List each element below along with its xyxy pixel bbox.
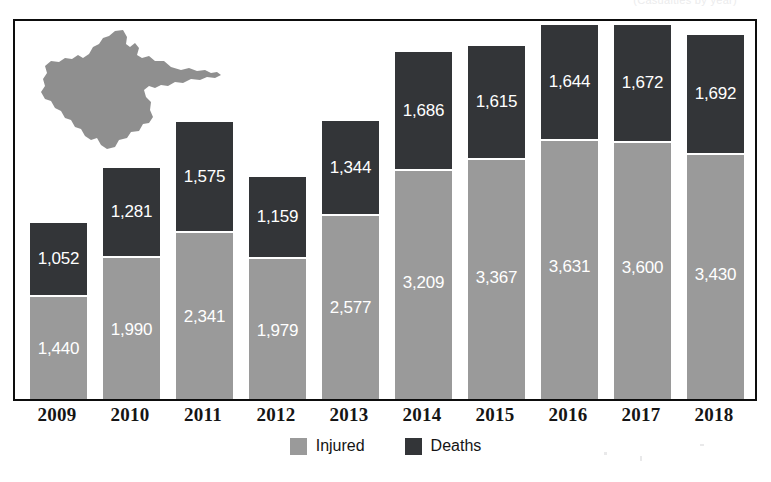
bar-segment-deaths-2012[interactable]: 1,159 — [249, 177, 306, 259]
bar-stack-2015: 1,615 3,367 — [468, 46, 525, 399]
bar-stack-2013: 1,344 2,577 — [322, 121, 379, 399]
x-tick-2018: 2018 — [682, 404, 746, 426]
bar-value-injured-2010: 1,990 — [103, 320, 160, 340]
bar-value-injured-2013: 2,577 — [322, 298, 379, 318]
bar-segment-deaths-2018[interactable]: 1,692 — [687, 35, 744, 155]
bar-value-injured-2017: 3,600 — [614, 258, 671, 278]
scan-artifact — [604, 452, 607, 455]
bar-value-deaths-2013: 1,344 — [322, 157, 379, 177]
bar-stack-2014: 1,686 3,209 — [395, 52, 452, 399]
x-tick-2010: 2010 — [98, 404, 162, 426]
plot-area: 1,052 1,440 1,281 1,990 1,57 — [15, 21, 755, 399]
bar-segment-injured-2010[interactable]: 1,990 — [103, 258, 160, 399]
bar-value-injured-2009: 1,440 — [30, 339, 87, 359]
legend-swatch-deaths-icon — [405, 438, 422, 455]
bar-segment-injured-2015[interactable]: 3,367 — [468, 160, 525, 399]
bar-segment-deaths-2017[interactable]: 1,672 — [614, 25, 671, 143]
cropped-caption-strip: (Casualties by year) — [0, 0, 771, 14]
bar-value-deaths-2014: 1,686 — [395, 100, 452, 120]
x-tick-2015: 2015 — [463, 404, 527, 426]
bar-value-injured-2015: 3,367 — [468, 268, 525, 288]
bar-value-injured-2011: 2,341 — [176, 307, 233, 327]
legend-item-injured[interactable]: Injured — [290, 437, 365, 455]
legend-item-deaths[interactable]: Deaths — [405, 437, 482, 455]
bar-segment-injured-2009[interactable]: 1,440 — [30, 297, 87, 399]
chart-legend: Injured Deaths — [0, 437, 771, 455]
scan-artifact — [640, 456, 642, 461]
scan-artifact — [700, 444, 704, 446]
bar-value-injured-2014: 3,209 — [395, 273, 452, 293]
bar-stack-2012: 1,159 1,979 — [249, 177, 306, 399]
bar-value-deaths-2009: 1,052 — [30, 249, 87, 269]
x-tick-2013: 2013 — [317, 404, 381, 426]
bar-segment-injured-2017[interactable]: 3,600 — [614, 143, 671, 399]
legend-label-deaths: Deaths — [431, 437, 482, 455]
bar-stack-2018: 1,692 3,430 — [687, 35, 744, 399]
bar-stack-2017: 1,672 3,600 — [614, 25, 671, 399]
bar-stack-2011: 1,575 2,341 — [176, 122, 233, 399]
bar-stack-2010: 1,281 1,990 — [103, 168, 160, 399]
bar-value-deaths-2012: 1,159 — [249, 207, 306, 227]
bar-value-injured-2018: 3,430 — [687, 265, 744, 285]
bar-segment-deaths-2016[interactable]: 1,644 — [541, 25, 598, 141]
legend-label-injured: Injured — [316, 437, 365, 455]
bar-stack-2009: 1,052 1,440 — [30, 223, 87, 399]
bar-value-injured-2016: 3,631 — [541, 257, 598, 277]
x-tick-2011: 2011 — [171, 404, 235, 426]
bar-segment-deaths-2014[interactable]: 1,686 — [395, 52, 452, 171]
bar-value-deaths-2015: 1,615 — [468, 92, 525, 112]
chart-frame: 1,052 1,440 1,281 1,990 1,57 — [13, 19, 757, 401]
x-axis: 2009 2010 2011 2012 2013 2014 2015 2016 … — [13, 404, 757, 430]
bar-value-deaths-2016: 1,644 — [541, 72, 598, 92]
bar-segment-injured-2013[interactable]: 2,577 — [322, 216, 379, 399]
bar-segment-deaths-2010[interactable]: 1,281 — [103, 168, 160, 258]
x-tick-2017: 2017 — [609, 404, 673, 426]
bar-segment-injured-2014[interactable]: 3,209 — [395, 171, 452, 399]
legend-swatch-injured-icon — [290, 438, 307, 455]
bar-segment-deaths-2009[interactable]: 1,052 — [30, 223, 87, 297]
x-tick-2009: 2009 — [25, 404, 89, 426]
bar-segment-injured-2011[interactable]: 2,341 — [176, 233, 233, 399]
bar-value-deaths-2017: 1,672 — [614, 73, 671, 93]
bar-segment-injured-2012[interactable]: 1,979 — [249, 259, 306, 399]
cropped-caption-text: (Casualties by year) — [633, 0, 737, 6]
bar-segment-injured-2016[interactable]: 3,631 — [541, 141, 598, 399]
bar-segment-deaths-2011[interactable]: 1,575 — [176, 122, 233, 233]
bar-value-injured-2012: 1,979 — [249, 321, 306, 341]
x-tick-2014: 2014 — [390, 404, 454, 426]
bar-segment-deaths-2013[interactable]: 1,344 — [322, 121, 379, 216]
bar-segment-deaths-2015[interactable]: 1,615 — [468, 46, 525, 160]
bar-segment-injured-2018[interactable]: 3,430 — [687, 155, 744, 399]
x-tick-2012: 2012 — [244, 404, 308, 426]
x-tick-2016: 2016 — [536, 404, 600, 426]
bar-stack-2016: 1,644 3,631 — [541, 25, 598, 399]
bar-value-deaths-2011: 1,575 — [176, 166, 233, 186]
bar-value-deaths-2018: 1,692 — [687, 84, 744, 104]
bar-value-deaths-2010: 1,281 — [103, 202, 160, 222]
